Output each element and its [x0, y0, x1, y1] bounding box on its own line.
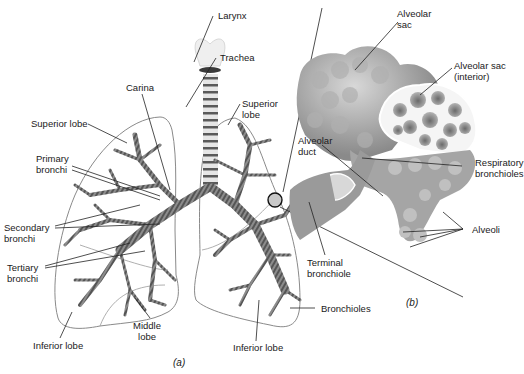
label-secondary-bronchi: Secondary bronchi: [4, 222, 49, 244]
label-carina: Carina: [126, 82, 154, 93]
label-alveolar-sac: Alveolar sac: [397, 8, 431, 30]
label-respiratory-bronchioles: Respiratory bronchioles: [475, 157, 524, 179]
magnifier-circle: [268, 193, 282, 207]
label-superior-lobe-left: Superior lobe: [31, 118, 88, 129]
label-alveolar-duct: Alveolar duct: [298, 135, 332, 157]
trachea-shape: [203, 74, 218, 186]
label-alveolar-sac-interior: Alveolar sac (interior): [454, 60, 506, 82]
label-tertiary-bronchi: Tertiary bronchi: [7, 262, 38, 284]
label-superior-lobe-right: Superior lobe: [242, 98, 278, 120]
caption-panel-a: (a): [173, 357, 185, 368]
caption-panel-b: (b): [406, 297, 418, 308]
label-inferior-lobe-right: Inferior lobe: [233, 342, 283, 353]
leader-lines-a: [45, 16, 315, 341]
label-alveoli: Alveoli: [472, 224, 500, 235]
label-inferior-lobe-left: Inferior lobe: [33, 340, 83, 351]
terminal-bronchiole-shape: [289, 150, 375, 240]
label-terminal-bronchiole: Terminal bronchiole: [307, 257, 351, 279]
label-larynx: Larynx: [218, 10, 247, 21]
label-primary-bronchi: Primary bronchi: [36, 153, 69, 175]
label-middle-lobe: Middle lobe: [133, 320, 161, 342]
label-trachea: Trachea: [220, 52, 255, 63]
label-bronchioles: Bronchioles: [321, 303, 371, 314]
